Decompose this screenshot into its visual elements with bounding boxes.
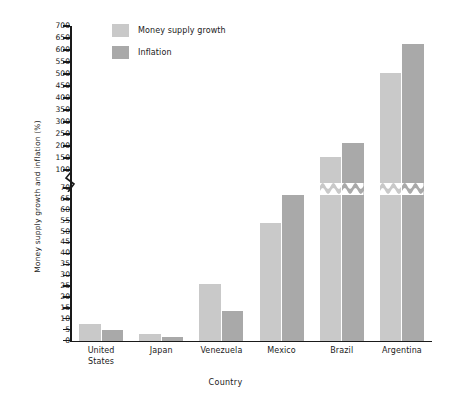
legend-item-money-supply-growth: Money supply growth [112,22,226,39]
y-axis-tick-label: 70 [10,183,70,192]
y-axis-tick-label: 55 [10,216,70,225]
legend-item-inflation: Inflation [112,44,226,61]
y-axis-tick-label: 150 [10,153,70,162]
y-axis-tick-label: 5 [10,325,70,334]
bar-group [139,26,183,341]
y-axis-tick-label: 65 [10,194,70,203]
legend-swatch-icon [112,46,129,59]
y-axis-tick-label: 200 [10,141,70,150]
y-axis-tick-label: 300 [10,117,70,126]
x-axis-label-argentina: Argentina [362,346,442,357]
y-axis-tick-label: 45 [10,237,70,246]
bar-money-supply-growth [320,157,342,341]
bar-money-supply-growth [79,324,101,341]
bar-group [380,26,424,341]
legend-label: Money supply growth [138,26,226,35]
y-axis-tick-label: 50 [10,227,70,236]
bar-money-supply-growth [380,73,402,341]
y-axis-tick-label: 650 [10,33,70,42]
bar-group [320,26,364,341]
bar-break-zigzag-icon [402,183,424,195]
bar-break-zigzag-icon [380,183,402,195]
bar-money-supply-growth [260,223,282,341]
bar-group [260,26,304,341]
bar-money-supply-growth [139,334,161,341]
y-axis-tick-label: 700 [10,21,70,30]
bar-group [199,26,243,341]
y-axis-tick-label: 30 [10,270,70,279]
bar-money-supply-growth [199,284,221,341]
bar-inflation [342,143,364,341]
x-axis-title: Country [0,378,451,387]
y-axis-tick-label: 450 [10,81,70,90]
y-axis-tick-label: 60 [10,205,70,214]
y-axis-tick-label: 15 [10,303,70,312]
y-axis-tick-label: 600 [10,45,70,54]
bar-group [79,26,123,341]
bar-inflation [402,44,424,341]
legend-swatch-icon [112,24,129,37]
y-axis-tick-label: 500 [10,69,70,78]
y-axis-tick-label: 100 [10,165,70,174]
bar-inflation [102,330,124,341]
y-axis-tick-label: 20 [10,292,70,301]
bar-inflation [162,337,184,341]
y-axis-tick-label: 0 [10,336,70,345]
y-axis-tick-label: 25 [10,281,70,290]
y-axis-tick-label: 550 [10,57,70,66]
plot-area [71,26,432,341]
bar-break-zigzag-icon [320,183,342,195]
bar-inflation [282,195,304,341]
y-axis-tick-label: 350 [10,105,70,114]
y-axis-tick-label: 250 [10,129,70,138]
legend: Money supply growth Inflation [112,22,226,66]
legend-label: Inflation [138,48,172,57]
y-axis-tick-label: 10 [10,314,70,323]
bar-chart: Money supply growth and inflation (%) 05… [0,0,451,404]
bar-inflation [222,311,244,342]
y-axis-tick-label: 40 [10,248,70,257]
y-axis-tick-label: 35 [10,259,70,268]
bar-break-zigzag-icon [342,183,364,195]
y-axis-tick-label: 400 [10,93,70,102]
